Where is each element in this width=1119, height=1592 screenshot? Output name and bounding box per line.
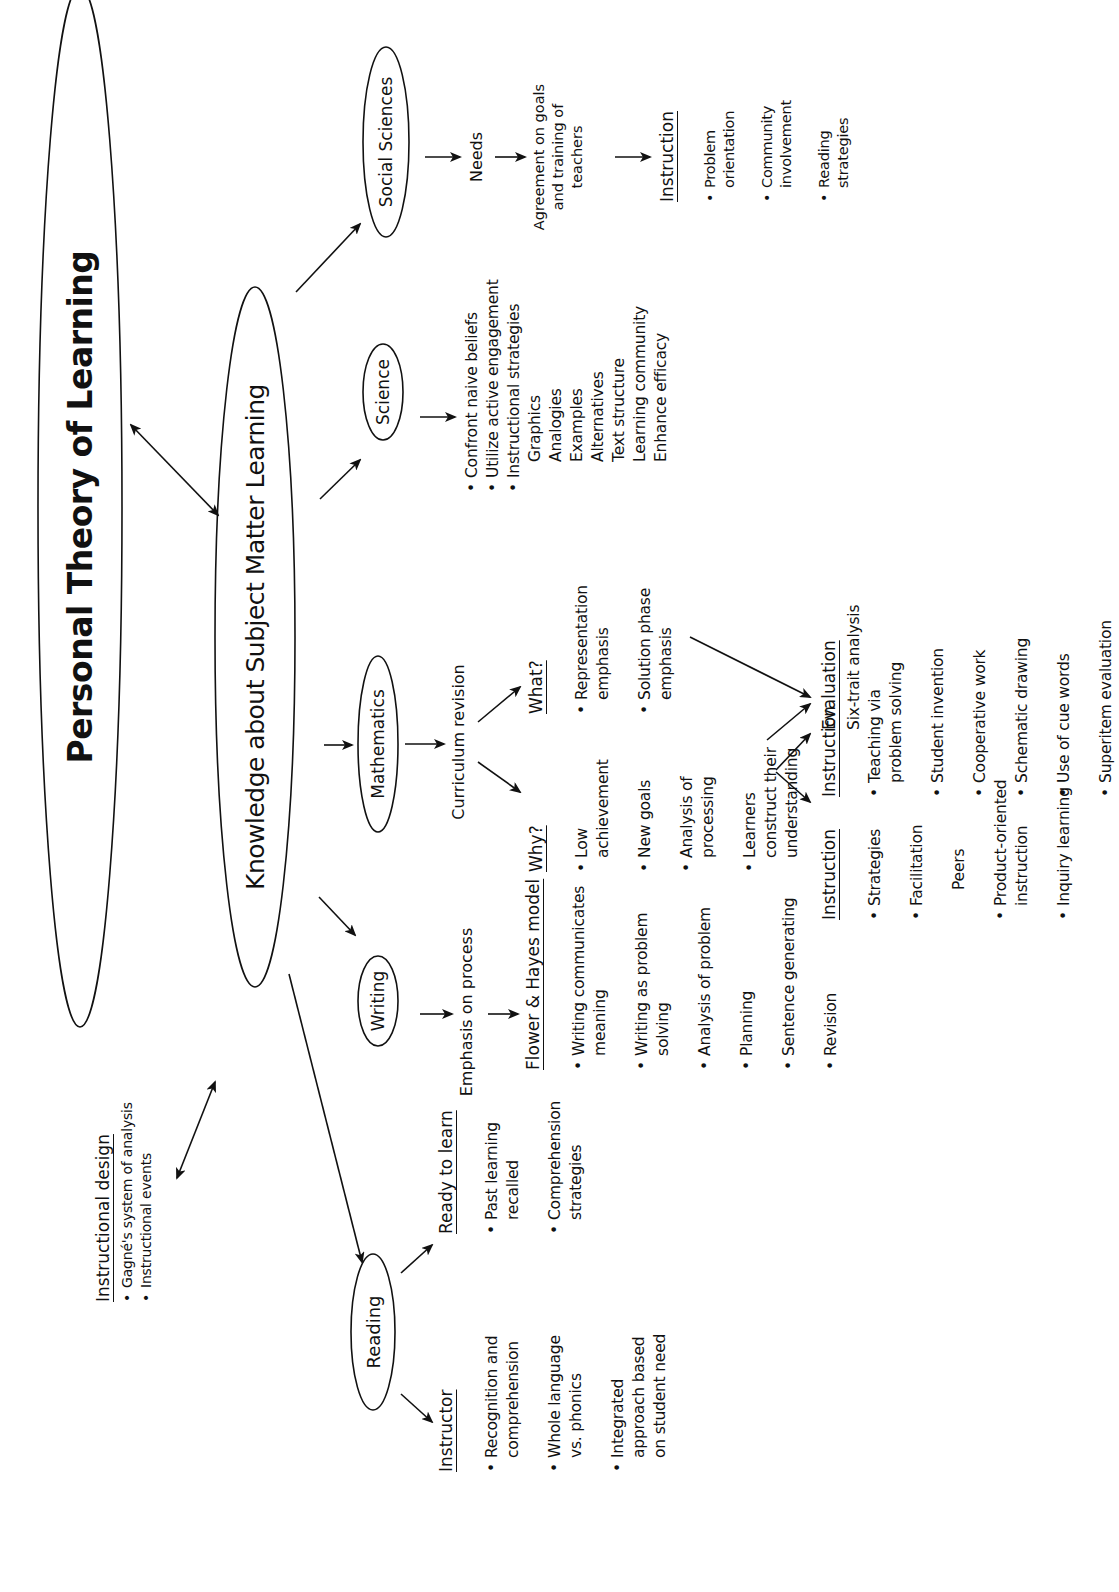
list-item: Reading strategies bbox=[815, 100, 853, 202]
social-instruction-block: Instruction Problem orientation Communit… bbox=[656, 100, 872, 202]
list-item: New goals bbox=[635, 747, 656, 872]
writing-instruction-block: Instruction Strategies Facilitation Peer… bbox=[818, 779, 1096, 920]
list-item: Use of cue words bbox=[1054, 620, 1075, 797]
list-sub-item: Analogies bbox=[546, 279, 567, 492]
writing-model-heading: Flower & Hayes model bbox=[522, 879, 544, 1070]
list-item: Writing as problem solving bbox=[632, 879, 674, 1070]
writing-emphasis: Emphasis on process bbox=[456, 902, 477, 1122]
title: Personal Theory of Learning bbox=[38, 0, 122, 1027]
math-instruction-heading: Instruction bbox=[818, 620, 840, 797]
reading-ready-heading: Ready to learn bbox=[435, 1101, 457, 1234]
list-item: Whole language vs. phonics bbox=[545, 1334, 587, 1472]
science-list: Confront naive beliefs Utilize active en… bbox=[462, 279, 672, 492]
list-sub-item: Learning community bbox=[630, 279, 651, 492]
list-item: Integrated approach based on student nee… bbox=[608, 1334, 671, 1472]
list-item: Past learning recalled bbox=[482, 1101, 524, 1234]
list-item: Analysis of problem bbox=[695, 879, 716, 1070]
list-item: Confront naive beliefs bbox=[462, 279, 483, 492]
science-node: Science bbox=[363, 344, 403, 440]
list-item: Cooperative work bbox=[970, 620, 991, 797]
list-item: Recognition and comprehension bbox=[482, 1334, 524, 1472]
list-item: Planning bbox=[737, 879, 758, 1070]
math-instruction-block: Instruction Teaching via problem solving… bbox=[818, 620, 1119, 797]
list-item: Student invention bbox=[928, 620, 949, 797]
social-agreement: Agreement on goals and training of teach… bbox=[530, 77, 587, 237]
math-why-list: Low achievement New goals Analysis of pr… bbox=[551, 747, 824, 872]
reading-instructor-block: Instructor Recognition and comprehension… bbox=[435, 1334, 692, 1472]
list-sub-item: Graphics bbox=[525, 279, 546, 492]
writing-node: Writing bbox=[358, 956, 398, 1046]
hub-node: Knowledge about Subject Matter Learning bbox=[215, 287, 295, 987]
list-item: Writing communicates meaning bbox=[569, 879, 611, 1070]
list-item: Strategies bbox=[865, 779, 886, 920]
social-instruction-list: Problem orientation Community involvemen… bbox=[682, 100, 872, 202]
list-item: Representation emphasis bbox=[572, 585, 614, 714]
list-item: Facilitation bbox=[907, 779, 928, 920]
list-item: Teaching via problem solving bbox=[865, 620, 907, 797]
list-sub-item: Enhance efficacy bbox=[651, 279, 672, 492]
writing-instruction-list: Strategies Facilitation Peers Product-or… bbox=[844, 779, 1096, 920]
reading-ready-list: Past learning recalled Comprehension str… bbox=[461, 1101, 608, 1234]
list-sub-item: Examples bbox=[567, 279, 588, 492]
list-item: Gagné's system of analysis bbox=[118, 1102, 137, 1302]
math-curriculum-revision: Curriculum revision bbox=[448, 652, 469, 832]
list-item: Community involvement bbox=[758, 100, 796, 202]
list-sub-item: Peers bbox=[949, 779, 970, 920]
math-what-block: What? Representation emphasis Solution p… bbox=[525, 585, 698, 714]
list-item: Solution phase emphasis bbox=[635, 585, 677, 714]
instructional-design-block: Instructional design Gagné's system of a… bbox=[92, 1102, 156, 1302]
writing-model-list: Writing communicates meaning Writing as … bbox=[548, 879, 863, 1070]
list-item: Analysis of processing bbox=[677, 747, 719, 872]
list-item: Comprehension strategies bbox=[545, 1101, 587, 1234]
list-item: Product-oriented instruction bbox=[991, 779, 1033, 920]
list-item: Learners construct their understanding bbox=[740, 747, 803, 872]
list-sub-item: Alternatives bbox=[588, 279, 609, 492]
list-item: Problem orientation bbox=[701, 100, 739, 202]
social-needs: Needs bbox=[466, 107, 487, 207]
social-sciences-node: Social Sciences bbox=[363, 47, 409, 237]
math-what-heading: What? bbox=[525, 585, 547, 714]
list-item: Instructional events bbox=[137, 1102, 156, 1302]
list-item: Superitem evaluation bbox=[1096, 620, 1117, 797]
math-instruction-list: Teaching via problem solving Student inv… bbox=[844, 620, 1119, 797]
reading-node: Reading bbox=[351, 1254, 395, 1410]
social-instruction-heading: Instruction bbox=[656, 100, 678, 202]
list-item: Schematic drawing bbox=[1012, 620, 1033, 797]
list-item: Low achievement bbox=[572, 747, 614, 872]
reading-instructor-heading: Instructor bbox=[435, 1334, 457, 1472]
math-why-heading: Why? bbox=[525, 747, 547, 872]
list-sub-item: Text structure bbox=[609, 279, 630, 492]
math-what-list: Representation emphasis Solution phase e… bbox=[551, 585, 698, 714]
list-item: Instructional strategies bbox=[504, 279, 525, 492]
mathematics-node: Mathematics bbox=[358, 656, 398, 832]
math-why-block: Why? Low achievement New goals Analysis … bbox=[525, 747, 824, 872]
writing-model-block: Flower & Hayes model Writing communicate… bbox=[522, 879, 863, 1070]
instructional-design-heading: Instructional design bbox=[92, 1102, 114, 1302]
list-item: Inquiry learning bbox=[1054, 779, 1075, 920]
list-item: Utilize active engagement bbox=[483, 279, 504, 492]
science-block: Confront naive beliefs Utilize active en… bbox=[462, 279, 672, 492]
reading-instructor-list: Recognition and comprehension Whole lang… bbox=[461, 1334, 692, 1472]
instructional-design-list: Gagné's system of analysis Instructional… bbox=[118, 1102, 156, 1302]
list-item: Sentence generating bbox=[779, 879, 800, 1070]
